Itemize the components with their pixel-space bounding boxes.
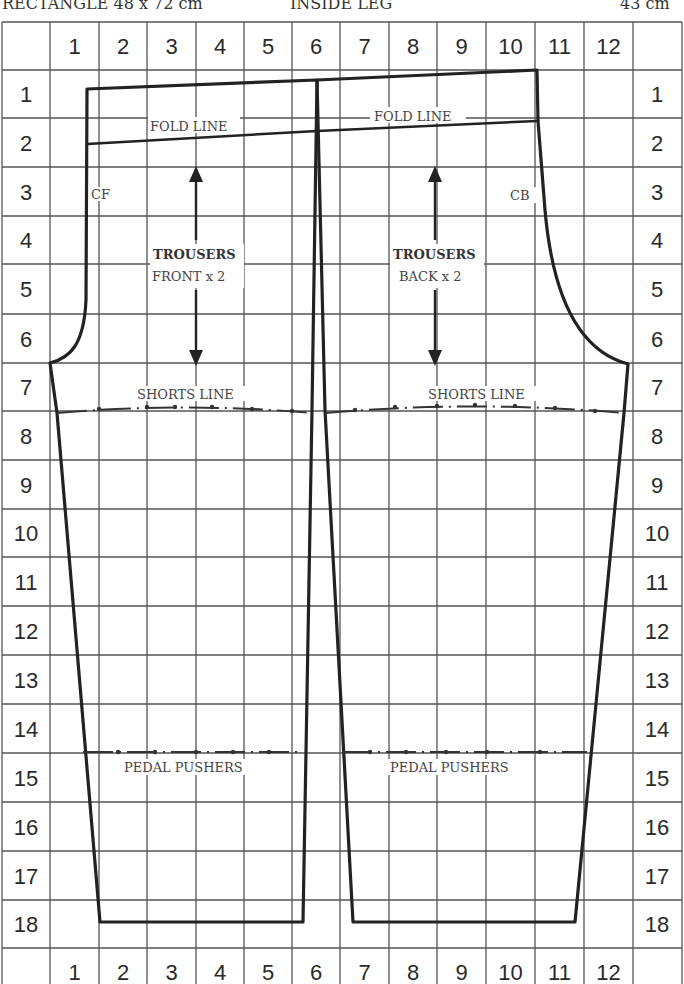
row-label-left: 3	[20, 180, 32, 205]
row-label-left: 2	[20, 131, 32, 156]
column-label-bottom: 6	[310, 960, 322, 984]
column-label-top: 12	[596, 34, 620, 59]
column-label-top: 9	[455, 34, 467, 59]
row-label-right: 6	[651, 327, 663, 352]
back-outline	[317, 70, 628, 922]
row-label-right: 11	[646, 570, 669, 595]
marker-dot	[513, 404, 517, 408]
front-fold-line-label: FOLD LINE	[150, 119, 228, 134]
row-label-left: 15	[14, 766, 38, 791]
column-label-top: 11	[548, 34, 571, 59]
row-label-left: 10	[14, 521, 38, 546]
row-label-right: 4	[651, 228, 663, 253]
marker-dot	[553, 406, 557, 410]
row-label-left: 8	[20, 424, 32, 449]
row-label-right: 14	[645, 717, 669, 742]
row-label-left: 18	[14, 912, 38, 937]
front-outline	[50, 80, 317, 922]
column-label-bottom: 4	[214, 960, 226, 984]
row-label-right: 1	[651, 82, 663, 107]
front-pedal-pushers-label: PEDAL PUSHERS	[124, 760, 243, 775]
column-label-bottom: 8	[407, 960, 419, 984]
back-piece	[317, 70, 628, 922]
row-label-left: 13	[14, 668, 38, 693]
row-label-left: 6	[20, 327, 32, 352]
front-shorts-line-label: SHORTS LINE	[137, 387, 234, 402]
row-label-right: 12	[645, 619, 669, 644]
marker-dot	[353, 408, 357, 412]
marker-dot	[473, 403, 477, 407]
column-label-bottom: 7	[358, 960, 370, 984]
column-label-top: 1	[68, 34, 80, 59]
back-shorts-line-label: SHORTS LINE	[428, 387, 525, 402]
column-label-top: 3	[165, 34, 177, 59]
column-label-top: 5	[262, 34, 274, 59]
row-label-right: 2	[651, 131, 663, 156]
row-label-left: 1	[20, 82, 32, 107]
row-label-left: 9	[20, 473, 32, 498]
column-label-top: 8	[407, 34, 419, 59]
column-label-bottom: 10	[498, 960, 522, 984]
row-label-right: 15	[645, 766, 669, 791]
column-label-bottom: 11	[548, 960, 571, 984]
grid-lines	[2, 22, 682, 984]
row-label-left: 16	[14, 815, 38, 840]
row-label-right: 7	[651, 375, 663, 400]
marker-dot	[250, 407, 254, 411]
column-label-top: 2	[117, 34, 129, 59]
row-label-left: 11	[15, 570, 38, 595]
back-pedal-pushers-label: PEDAL PUSHERS	[390, 760, 509, 775]
marker-dot	[145, 405, 149, 409]
row-label-right: 16	[645, 815, 669, 840]
center-back-mark: CB	[510, 188, 530, 203]
column-label-top: 4	[214, 34, 226, 59]
row-label-right: 5	[651, 277, 663, 302]
row-label-right: 10	[645, 521, 669, 546]
marker-dot	[97, 407, 101, 411]
row-label-left: 4	[20, 228, 32, 253]
column-labels-bottom: 123456789101112	[68, 960, 620, 984]
row-label-left: 5	[20, 277, 32, 302]
column-label-top: 6	[310, 34, 322, 59]
row-label-right: 3	[651, 180, 663, 205]
center-front-mark: CF	[91, 187, 110, 202]
row-label-right: 8	[651, 424, 663, 449]
front-piece-title: TROUSERS	[153, 247, 236, 262]
column-label-top: 7	[358, 34, 370, 59]
column-label-bottom: 9	[455, 960, 467, 984]
front-shorts-line	[57, 408, 312, 414]
row-label-left: 17	[14, 864, 38, 889]
marker-dot	[173, 405, 177, 409]
row-label-left: 7	[20, 375, 32, 400]
column-label-bottom: 1	[68, 960, 80, 984]
back-fold-line-label: FOLD LINE	[374, 109, 452, 124]
marker-dot	[290, 409, 294, 413]
row-label-right: 13	[645, 668, 669, 693]
column-label-bottom: 2	[117, 960, 129, 984]
front-piece	[50, 80, 317, 922]
front-piece-subtitle: FRONT x 2	[152, 269, 225, 284]
back-piece-subtitle: BACK x 2	[399, 269, 461, 284]
row-label-right: 9	[651, 473, 663, 498]
marker-dot	[593, 409, 597, 413]
column-label-top: 10	[498, 34, 522, 59]
row-label-left: 14	[14, 717, 38, 742]
column-label-bottom: 3	[165, 960, 177, 984]
column-label-bottom: 12	[596, 960, 620, 984]
row-label-right: 17	[645, 864, 669, 889]
column-label-bottom: 5	[262, 960, 274, 984]
marker-dot	[393, 405, 397, 409]
marker-dot	[435, 404, 439, 408]
column-labels-top: 123456789101112	[68, 34, 620, 59]
pattern-grid: 123456789101112 123456789101112 12345678…	[0, 0, 684, 984]
marker-dot	[210, 405, 214, 409]
back-piece-title: TROUSERS	[393, 247, 476, 262]
back-shorts-line	[325, 407, 624, 414]
row-label-left: 12	[14, 619, 38, 644]
row-label-right: 18	[645, 912, 669, 937]
